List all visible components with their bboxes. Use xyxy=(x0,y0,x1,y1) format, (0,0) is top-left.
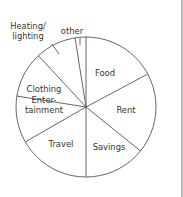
slice-label-line: Food xyxy=(95,68,115,78)
slice-label-clothing: Clothing xyxy=(27,84,62,94)
slice-label-savings: Savings xyxy=(93,142,126,152)
slice-label-line: tainment xyxy=(25,105,64,115)
slice-label-line: Clothing xyxy=(27,84,62,94)
slice-label-line: Savings xyxy=(93,142,126,152)
slice-label-rent: Rent xyxy=(116,105,136,115)
slice-label-travel: Travel xyxy=(48,139,74,149)
slice-label-heating-lighting: Heating/lighting xyxy=(10,21,46,41)
slice-label-line: Enter- xyxy=(32,95,57,105)
pie-chart: FoodRentSavingsTravelEnter-tainmentCloth… xyxy=(0,0,183,197)
slice-label-line: other xyxy=(61,26,84,36)
slice-label-line: Rent xyxy=(116,105,136,115)
slice-label-line: Heating/ xyxy=(10,21,46,31)
slice-label-line: lighting xyxy=(12,31,44,41)
slice-label-line: Travel xyxy=(48,139,74,149)
slice-label-food: Food xyxy=(95,68,115,78)
slice-label-other: other xyxy=(61,26,84,36)
